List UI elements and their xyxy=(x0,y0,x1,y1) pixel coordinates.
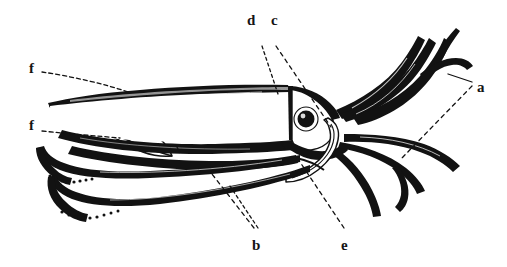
squid-illustration xyxy=(0,0,507,267)
label-d-mantle: d xyxy=(247,13,255,28)
label-b-tentacle: b xyxy=(252,238,260,253)
squid-diagram-figure: d c a f f b e xyxy=(0,0,507,267)
label-a-arms: a xyxy=(477,80,485,95)
eye xyxy=(298,111,315,128)
eye-highlight xyxy=(301,114,306,119)
label-f-fin-lower: f xyxy=(29,118,34,133)
label-c-head: c xyxy=(271,13,278,28)
label-e-funnel: e xyxy=(341,238,348,253)
label-f-fin-upper: f xyxy=(29,61,34,76)
